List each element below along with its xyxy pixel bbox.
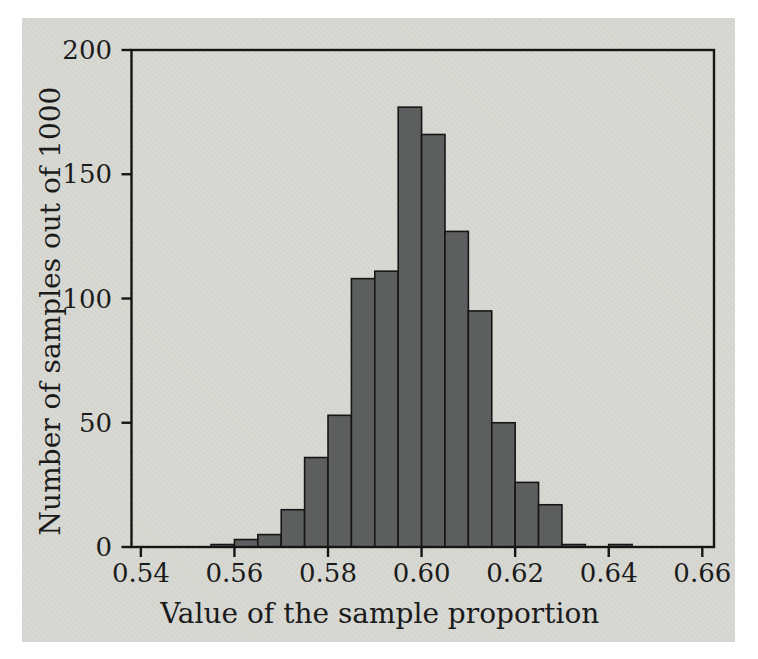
y-tick-label: 150	[62, 159, 112, 189]
histogram-bar	[492, 423, 515, 547]
x-tick-label: 0.64	[580, 558, 638, 588]
histogram-bar	[375, 271, 398, 547]
histogram-bar	[305, 458, 328, 547]
histogram-bar	[398, 107, 421, 547]
y-tick-label: 100	[62, 284, 112, 314]
x-tick-label: 0.58	[299, 558, 357, 588]
histogram-bar	[281, 510, 304, 547]
histogram-bar	[258, 535, 281, 547]
x-axis-title: Value of the sample proportion	[159, 597, 599, 630]
y-axis-title: Number of samples out of 1000	[34, 87, 67, 536]
x-tick-label: 0.56	[205, 558, 263, 588]
x-tick-label: 0.60	[393, 558, 451, 588]
histogram-bar	[515, 482, 538, 547]
histogram-bar	[328, 415, 351, 547]
x-tick-label: 0.62	[486, 558, 544, 588]
histogram-bar	[539, 505, 562, 547]
histogram-chart: 0.540.560.580.600.620.640.66050100150200…	[0, 0, 758, 659]
histogram-bar	[422, 134, 445, 547]
y-tick-label: 0	[95, 532, 112, 562]
y-tick-label: 50	[79, 408, 112, 438]
histogram-bar	[445, 231, 468, 547]
x-tick-label: 0.66	[673, 558, 731, 588]
histogram-bar	[468, 311, 491, 547]
figure-page: 0.540.560.580.600.620.640.66050100150200…	[0, 0, 758, 659]
histogram-bar	[351, 279, 374, 547]
y-tick-label: 200	[62, 35, 112, 65]
x-tick-label: 0.54	[112, 558, 170, 588]
